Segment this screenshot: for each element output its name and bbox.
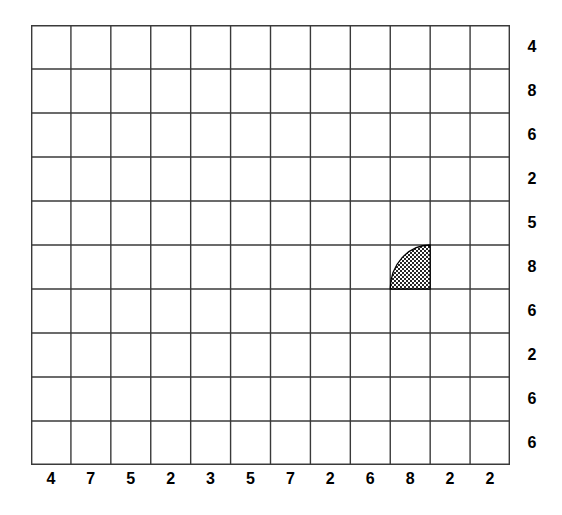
grid-cell [31,69,71,113]
grid-cell [71,201,111,245]
column-label: 6 [350,471,390,487]
grid-cell [350,421,390,465]
row-label: 4 [512,25,552,69]
grid-cell [310,289,350,333]
grid-cell [231,201,271,245]
grid-cell [71,377,111,421]
grid-cell [31,201,71,245]
grid-cell [271,113,311,157]
row-label: 6 [512,289,552,333]
grid-cell [231,289,271,333]
grid-plot-area [31,25,510,465]
grid-cell [470,377,510,421]
grid-cell [390,377,430,421]
column-label: 2 [470,471,510,487]
grid-cell [390,69,430,113]
grid-cell [71,69,111,113]
grid-cell [350,377,390,421]
grid-cell [151,377,191,421]
grid-cell [191,69,231,113]
grid-cell [71,25,111,69]
grid-cell [151,113,191,157]
grid-cell [71,333,111,377]
grid-cell [71,157,111,201]
row-label: 2 [512,333,552,377]
grid-cell [111,421,151,465]
grid-cell [470,69,510,113]
grid-cell [191,201,231,245]
grid-cell [390,201,430,245]
grid-cell [430,377,470,421]
grid-cell [111,69,151,113]
row-axis-labels: 4862586266 [512,25,560,465]
grid-cell [271,333,311,377]
grid-cell [271,245,311,289]
grid-cell [191,157,231,201]
grid-cell [430,25,470,69]
grid-cell [350,113,390,157]
grid-cell [231,25,271,69]
row-label: 6 [512,421,552,465]
grid-cell [310,69,350,113]
grid-cell [430,333,470,377]
grid-cell [191,333,231,377]
grid-cell [191,421,231,465]
grid-cell [191,113,231,157]
grid-cell [151,157,191,201]
grid-cell [111,245,151,289]
grid-cell [310,377,350,421]
grid-cell [470,289,510,333]
column-label: 3 [191,471,231,487]
row-label: 8 [512,69,552,113]
grid-cell [470,113,510,157]
grid-svg [31,25,510,465]
column-axis-labels: 475235726822 [31,471,510,493]
grid-cell [310,25,350,69]
grid-cell [31,157,71,201]
grid-cell [430,245,470,289]
column-label: 2 [151,471,191,487]
grid-cell [350,25,390,69]
column-label: 7 [271,471,311,487]
grid-cell [310,113,350,157]
grid-cell [310,201,350,245]
grid-cell [111,289,151,333]
grid-cell [111,201,151,245]
grid-cell [111,25,151,69]
grid-cell [151,289,191,333]
grid-cell [31,377,71,421]
grid-cell [271,421,311,465]
grid-cell [390,333,430,377]
grid-cell [151,201,191,245]
grid-cell [271,289,311,333]
grid-cell [350,157,390,201]
grid-cell [71,421,111,465]
row-label: 6 [512,113,552,157]
row-label: 8 [512,245,552,289]
grid-cell [470,421,510,465]
grid-cell [71,245,111,289]
grid-cell [231,157,271,201]
grid-cell [350,289,390,333]
grid-cell [310,245,350,289]
grid-cell [390,113,430,157]
grid-cell [31,333,71,377]
grid-cell [271,377,311,421]
grid-cell [191,377,231,421]
grid-cell [71,289,111,333]
grid-cell [310,333,350,377]
grid-cell [151,69,191,113]
column-label: 2 [430,471,470,487]
column-label: 4 [31,471,71,487]
grid-cell [470,245,510,289]
column-label: 5 [231,471,271,487]
grid-cell [390,289,430,333]
column-label: 8 [390,471,430,487]
grid-cell [470,25,510,69]
grid-cell [151,245,191,289]
grid-cell [390,25,430,69]
grid-cell [470,333,510,377]
grid-cell [430,421,470,465]
grid-cell [71,113,111,157]
grid-cell [350,333,390,377]
